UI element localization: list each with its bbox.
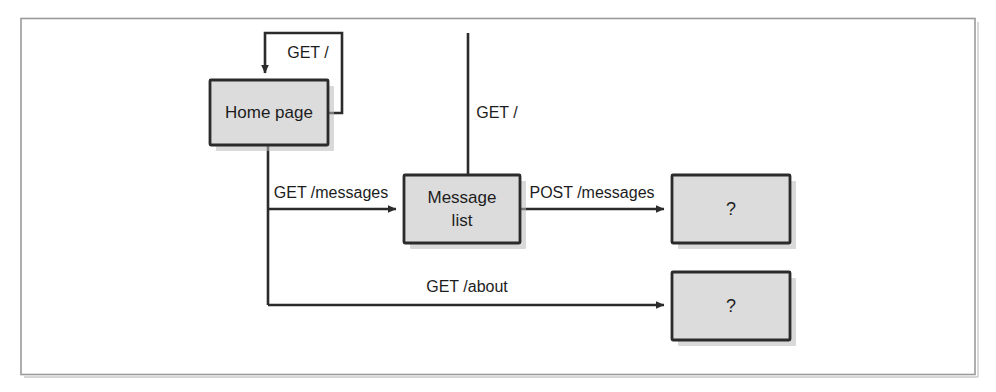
figure-container: GET / GET / GET /messages POST /messages… bbox=[0, 0, 996, 392]
edge-label-get-messages: GET /messages bbox=[274, 184, 388, 201]
edge-label-get-root-return: GET / bbox=[476, 104, 518, 121]
edge-messages-to-home: GET / bbox=[468, 33, 518, 175]
state-transition-diagram: GET / GET / GET /messages POST /messages… bbox=[0, 0, 996, 392]
edge-label-get-about: GET /about bbox=[426, 278, 508, 295]
edge-home-to-unknown2: GET /about bbox=[268, 278, 664, 305]
node-unknown-1[interactable]: ? bbox=[672, 175, 796, 249]
node-unknown-2-label: ? bbox=[726, 296, 736, 316]
node-message-list[interactable]: Message list bbox=[404, 175, 526, 249]
edge-home-to-messages: GET /messages bbox=[268, 184, 396, 209]
node-home-page-label: Home page bbox=[225, 103, 313, 122]
node-message-list-label-line2: list bbox=[452, 211, 473, 230]
edge-label-post-messages: POST /messages bbox=[529, 184, 654, 201]
node-home-page[interactable]: Home page bbox=[210, 80, 334, 151]
edge-label-get-root-self: GET / bbox=[287, 44, 329, 61]
node-message-list-label-line1: Message bbox=[428, 188, 497, 207]
node-message-list-box[interactable] bbox=[404, 175, 520, 243]
node-unknown-2[interactable]: ? bbox=[672, 272, 796, 346]
edge-messages-to-unknown1: POST /messages bbox=[520, 184, 664, 209]
node-unknown-1-label: ? bbox=[726, 199, 736, 219]
